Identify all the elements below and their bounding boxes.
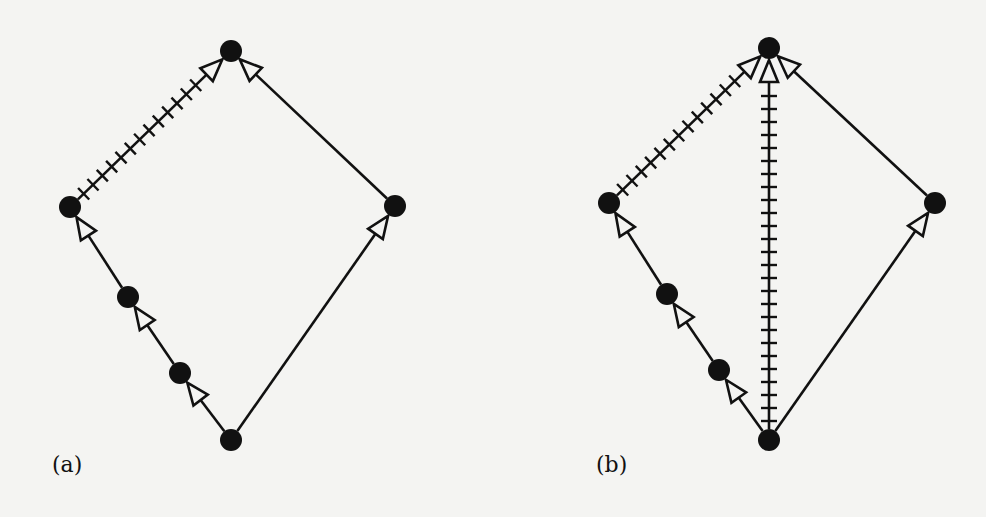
open-arrowhead-icon	[674, 304, 694, 327]
edge-line	[627, 232, 661, 285]
edge-line	[775, 231, 915, 431]
panel-a-label: (a)	[52, 452, 82, 477]
edge-line	[739, 398, 763, 431]
edge-bottom-to-top	[760, 60, 778, 429]
edge-mid1-to-left	[615, 213, 661, 285]
edge-right-to-top	[240, 59, 387, 198]
node-mid2	[169, 362, 191, 384]
diagram-canvas	[0, 0, 986, 517]
edge-line	[88, 236, 122, 288]
edge-bottom-to-right	[775, 213, 928, 431]
node-right	[924, 192, 946, 214]
edge-bottom-to-mid2	[726, 380, 763, 431]
edge-line	[794, 71, 927, 195]
node-mid2	[708, 359, 730, 381]
node-bottom	[220, 429, 242, 451]
open-arrowhead-icon	[726, 380, 746, 403]
open-arrowhead-icon	[615, 213, 634, 236]
node-top	[220, 40, 242, 62]
open-arrowhead-icon	[760, 60, 778, 82]
edge-left-to-top	[617, 56, 760, 195]
edge-line	[686, 322, 713, 361]
edge-right-to-top	[778, 56, 927, 195]
edge-left-to-top	[78, 59, 222, 199]
node-bottom	[758, 429, 780, 451]
edge-mid2-to-mid1	[674, 304, 713, 361]
node-mid1	[117, 286, 139, 308]
edge-bottom-to-right	[237, 216, 388, 431]
node-right	[384, 195, 406, 217]
node-top	[758, 37, 780, 59]
edge-mid1-to-left	[77, 217, 123, 288]
node-left	[598, 192, 620, 214]
panel-b-graph	[598, 37, 946, 451]
open-arrowhead-icon	[135, 307, 155, 330]
edge-line	[147, 325, 174, 364]
edge-line	[237, 234, 375, 431]
open-arrowhead-icon	[908, 213, 928, 236]
edge-line	[256, 74, 387, 198]
open-arrowhead-icon	[368, 216, 388, 239]
open-arrowhead-icon	[187, 383, 207, 406]
panel-b-label: (b)	[596, 452, 627, 477]
node-mid1	[656, 283, 678, 305]
edge-mid2-to-mid1	[135, 307, 174, 364]
panel-a-graph	[59, 40, 406, 451]
edge-line	[78, 75, 207, 200]
node-left	[59, 196, 81, 218]
edge-bottom-to-mid2	[187, 383, 224, 432]
edge-line	[201, 400, 225, 431]
open-arrowhead-icon	[77, 217, 96, 240]
